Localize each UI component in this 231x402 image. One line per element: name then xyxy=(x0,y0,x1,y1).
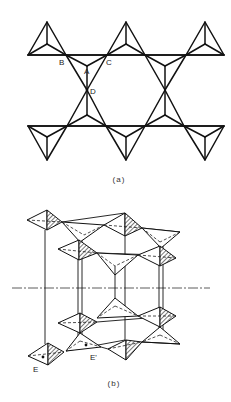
tetrahedron-upper-center xyxy=(97,253,138,275)
tetrahedron-upper-link-1 xyxy=(62,222,104,242)
tetrahedron-lower-right xyxy=(142,327,180,344)
polyhedron-lower-4 xyxy=(108,340,142,360)
tetrahedron-lower-left-link xyxy=(66,333,101,351)
tetrahedron-bottom-1 xyxy=(28,126,67,160)
tetrahedron-bottom-2 xyxy=(106,126,145,160)
tetrahedron-lower-center xyxy=(97,298,138,318)
polyhedron-upper-2 xyxy=(104,213,142,236)
polyhedron-upper-1 xyxy=(27,210,62,230)
tetrahedron-bottom-3 xyxy=(184,126,224,160)
tetrahedron-top-1 xyxy=(28,22,66,55)
tetrahedron-mid-upper-2 xyxy=(145,55,186,90)
label-c: C xyxy=(106,58,112,67)
vertex-d-dot xyxy=(86,89,89,92)
tetrahedron-mid-lower-2 xyxy=(145,90,184,126)
label-d: D xyxy=(90,87,96,96)
polyhedron-upper-4 xyxy=(138,246,176,266)
tetrahedron-mid-lower-1 xyxy=(67,90,106,126)
diagram-canvas: B A C D (a) xyxy=(0,0,231,402)
tetrahedron-top-3 xyxy=(186,22,224,55)
polyhedron-lower-2 xyxy=(138,307,176,327)
polyhedron-lower-3 xyxy=(28,343,64,365)
label-e: E xyxy=(33,365,38,374)
label-e-prime: E' xyxy=(90,353,97,362)
caption-b: (b) xyxy=(108,379,121,388)
figure: B A C D (a) xyxy=(0,0,231,402)
polyhedron-upper-3 xyxy=(58,240,97,260)
tetrahedron-top-2 xyxy=(107,22,145,55)
caption-a: (a) xyxy=(113,175,126,184)
tetrahedron-upper-link-2 xyxy=(142,228,180,248)
panel-a-diagram: B A C D (a) xyxy=(28,22,224,184)
panel-b-diagram: E E' (b) xyxy=(12,210,210,388)
polyhedron-lower-1 xyxy=(58,313,97,333)
label-a: A xyxy=(84,67,90,76)
label-b: B xyxy=(59,58,64,67)
